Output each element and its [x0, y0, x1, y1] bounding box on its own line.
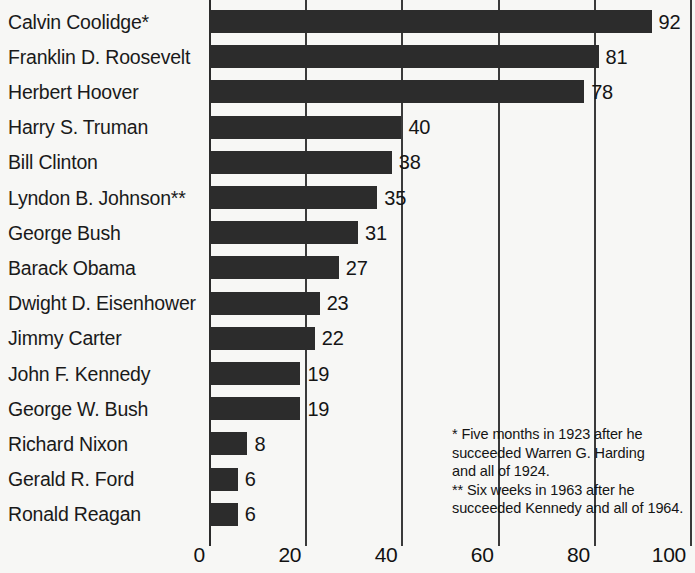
- bar-value-label: 19: [307, 364, 329, 384]
- x-tick-label: 80: [567, 543, 590, 567]
- bar[interactable]: [209, 80, 584, 103]
- bar-category-label: Herbert Hoover: [8, 82, 139, 102]
- bar-category-label: Bill Clinton: [8, 152, 98, 172]
- bar-row[interactable]: Franklin D. Roosevelt81: [0, 45, 695, 68]
- footnote: * Five months in 1923 after he succeeded…: [452, 425, 690, 481]
- bar-row[interactable]: Bill Clinton38: [0, 151, 695, 174]
- bar[interactable]: [209, 116, 401, 139]
- bar-row[interactable]: George W. Bush19: [0, 397, 695, 420]
- bar[interactable]: [209, 45, 599, 68]
- bar[interactable]: [209, 292, 320, 315]
- x-axis: 020406080100: [0, 538, 695, 573]
- bar-row[interactable]: George Bush31: [0, 221, 695, 244]
- bar-category-label: Richard Nixon: [8, 434, 128, 454]
- bar[interactable]: [209, 503, 238, 526]
- bar-category-label: John F. Kennedy: [8, 364, 150, 384]
- bar-row[interactable]: Barack Obama27: [0, 256, 695, 279]
- x-tick-label: 40: [375, 543, 398, 567]
- bar-value-label: 27: [346, 258, 368, 278]
- bar-value-label: 22: [322, 328, 344, 348]
- footnote: ** Six weeks in 1963 after he succeeded …: [452, 481, 690, 518]
- bar-value-label: 38: [399, 152, 421, 172]
- bar[interactable]: [209, 256, 339, 279]
- footnotes-block: * Five months in 1923 after he succeeded…: [452, 425, 690, 518]
- bar-value-label: 92: [659, 12, 681, 32]
- bar-category-label: Barack Obama: [8, 258, 136, 278]
- bar-value-label: 81: [606, 47, 628, 67]
- bar[interactable]: [209, 327, 315, 350]
- bar-category-label: Harry S. Truman: [8, 117, 148, 137]
- bar-value-label: 23: [327, 293, 349, 313]
- bar-row[interactable]: Jimmy Carter22: [0, 327, 695, 350]
- bar-row[interactable]: Harry S. Truman40: [0, 116, 695, 139]
- bar[interactable]: [209, 186, 377, 209]
- bar-category-label: Dwight D. Eisenhower: [8, 293, 196, 313]
- bar-category-label: Calvin Coolidge*: [8, 12, 149, 32]
- bar-row[interactable]: Calvin Coolidge*92: [0, 10, 695, 33]
- bar-category-label: Gerald R. Ford: [8, 469, 134, 489]
- x-tick-label: 100: [652, 543, 686, 567]
- bar[interactable]: [209, 362, 300, 385]
- bar-category-label: Jimmy Carter: [8, 328, 122, 348]
- bar-category-label: George Bush: [8, 223, 121, 243]
- x-tick-label: 20: [278, 543, 301, 567]
- bar[interactable]: [209, 432, 247, 455]
- bar-value-label: 78: [591, 82, 613, 102]
- bar-category-label: Franklin D. Roosevelt: [8, 47, 190, 67]
- bar-value-label: 35: [384, 188, 406, 208]
- bar-value-label: 6: [245, 469, 256, 489]
- bar-category-label: Lyndon B. Johnson**: [8, 188, 186, 208]
- bar[interactable]: [209, 10, 652, 33]
- bar-row[interactable]: Dwight D. Eisenhower23: [0, 292, 695, 315]
- bar-row[interactable]: Lyndon B. Johnson**35: [0, 186, 695, 209]
- bar-value-label: 8: [254, 434, 265, 454]
- bar-category-label: Ronald Reagan: [8, 504, 141, 524]
- x-tick-label: 0: [194, 543, 205, 567]
- bar-row[interactable]: Herbert Hoover78: [0, 80, 695, 103]
- bar-value-label: 19: [307, 399, 329, 419]
- bar[interactable]: [209, 397, 300, 420]
- bar-value-label: 31: [365, 223, 387, 243]
- bar-row[interactable]: John F. Kennedy19: [0, 362, 695, 385]
- bar[interactable]: [209, 221, 358, 244]
- bar-value-label: 40: [408, 117, 430, 137]
- x-tick-label: 60: [471, 543, 494, 567]
- bar-chart: Calvin Coolidge*92Franklin D. Roosevelt8…: [0, 0, 695, 573]
- bar[interactable]: [209, 151, 392, 174]
- bar-category-label: George W. Bush: [8, 399, 148, 419]
- bar[interactable]: [209, 468, 238, 491]
- bar-value-label: 6: [245, 504, 256, 524]
